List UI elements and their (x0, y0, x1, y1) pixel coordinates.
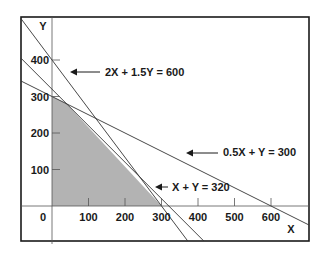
x-tick-label-600: 600 (262, 211, 280, 223)
x-tick-label-400: 400 (189, 211, 207, 223)
y-tick-label-300: 300 (31, 91, 49, 103)
y-tick-label-400: 400 (31, 54, 49, 66)
arrowhead-icon (70, 69, 77, 76)
x-tick-label-300: 300 (152, 211, 170, 223)
constraint-label-2: 0.5X + Y = 300 (223, 146, 296, 158)
origin-label: 0 (40, 211, 46, 223)
constraint-line-3 (21, 58, 204, 241)
x-axis-label: X (287, 223, 295, 235)
x-tick-label-200: 200 (116, 211, 134, 223)
y-axis-label: Y (39, 20, 47, 32)
y-tick-label-200: 200 (31, 127, 49, 139)
x-tick-label-500: 500 (225, 211, 243, 223)
constraint-label-1: 2X + 1.5Y = 600 (105, 66, 184, 78)
y-tick-label-100: 100 (31, 164, 49, 176)
arrowhead-icon (155, 184, 162, 191)
diagram: 1002003004005006001002003004000XY2X + 1.… (0, 0, 328, 254)
constraint-label-3: X + Y = 320 (172, 181, 230, 193)
x-tick-label-100: 100 (79, 211, 97, 223)
arrowhead-icon (186, 150, 193, 157)
feasible-region (52, 97, 162, 207)
